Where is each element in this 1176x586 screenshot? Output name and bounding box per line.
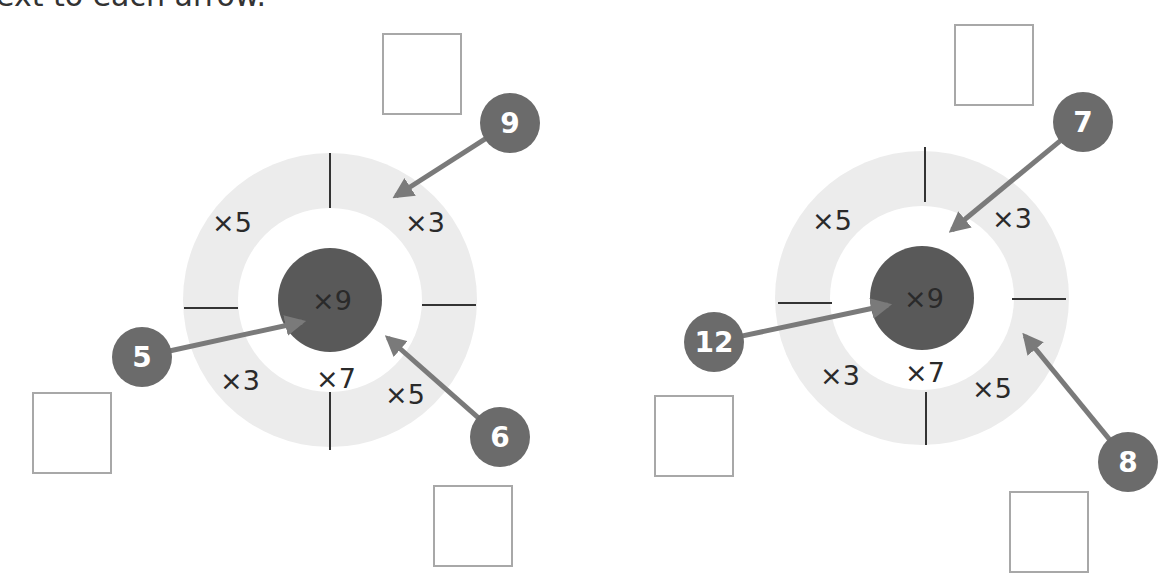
arrow xyxy=(396,138,486,196)
answer-box[interactable] xyxy=(955,25,1033,105)
inner-ring-label: ×7 xyxy=(905,357,945,388)
right-target: ×5×3×3×5×9×77128 xyxy=(655,25,1158,572)
answer-box[interactable] xyxy=(33,393,111,473)
arrow-number: 9 xyxy=(500,107,519,140)
answer-box[interactable] xyxy=(1010,492,1088,572)
answer-box[interactable] xyxy=(434,486,512,566)
bullseye-label: ×9 xyxy=(312,285,352,316)
arrow-number: 7 xyxy=(1073,106,1092,139)
segment-label-bottom-left: ×3 xyxy=(820,360,860,391)
segment-label-bottom-right: ×5 xyxy=(385,379,425,410)
arrow-number: 8 xyxy=(1118,446,1137,479)
answer-box[interactable] xyxy=(383,34,461,114)
segment-label-top-right: ×3 xyxy=(405,207,445,238)
arrow-number: 6 xyxy=(490,421,509,454)
bullseye-label: ×9 xyxy=(904,283,944,314)
dartboard-diagram: ×5×3×3×5×9×7956 ×5×3×3×5×9×77128 xyxy=(0,0,1176,586)
inner-ring-label: ×7 xyxy=(316,363,356,394)
arrow-number: 12 xyxy=(695,326,734,359)
arrow-number: 5 xyxy=(132,341,151,374)
answer-box[interactable] xyxy=(655,396,733,476)
segment-label-top-left: ×5 xyxy=(212,207,252,238)
segment-label-top-left: ×5 xyxy=(812,205,852,236)
segment-label-bottom-right: ×5 xyxy=(972,373,1012,404)
segment-label-bottom-left: ×3 xyxy=(220,365,260,396)
left-target: ×5×3×3×5×9×7956 xyxy=(33,34,540,566)
segment-label-top-right: ×3 xyxy=(992,203,1032,234)
